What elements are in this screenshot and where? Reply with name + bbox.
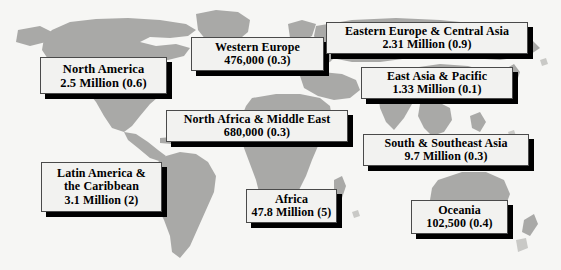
callout-oceania-value: 102,500 (0.4) (426, 217, 492, 230)
landmass-new-zealand (522, 214, 538, 236)
landmass-new-zealand-south (516, 238, 528, 252)
landmass-philippines (470, 112, 486, 132)
callout-south-asia-label: South & Southeast Asia (384, 137, 507, 150)
callout-africa[interactable]: Africa 47.8 Million (5) (246, 189, 337, 223)
callout-north-america[interactable]: North America 2.5 Million (0.6) (40, 57, 167, 94)
callout-latin-america-caribbean[interactable]: Latin America & the Caribbean 3.1 Millio… (41, 162, 162, 212)
callout-africa-label: Africa (275, 193, 308, 206)
callout-western-europe-label: Western Europe (215, 41, 300, 54)
callout-western-europe[interactable]: Western Europe 476,000 (0.3) (191, 37, 324, 71)
landmass-southeast-asia (418, 102, 452, 136)
callout-western-europe-value: 476,000 (0.3) (224, 54, 290, 67)
callout-eastern-europe-value: 2.31 Million (0.9) (382, 38, 471, 51)
callout-north-america-value: 2.5 Million (0.6) (60, 76, 146, 90)
landmass-central-america (124, 132, 166, 162)
callout-east-asia-label: East Asia & Pacific (387, 70, 487, 83)
world-map-infographic: North America 2.5 Million (0.6) Western … (0, 0, 561, 270)
callout-latin-america-label-line2: the Caribbean (64, 180, 139, 193)
callout-eastern-europe-label: Eastern Europe & Central Asia (345, 25, 509, 38)
callout-africa-value: 47.8 Million (5) (252, 206, 332, 219)
callout-latin-america-value: 3.1 Million (2) (65, 194, 139, 207)
callout-south-asia-value: 9.7 Million (0.3) (404, 150, 487, 163)
callout-latin-america-label-line1: Latin America & (57, 167, 146, 180)
callout-north-africa-middle-east[interactable]: North Africa & Middle East 680,000 (0.3) (166, 110, 348, 142)
callout-oceania[interactable]: Oceania 102,500 (0.4) (411, 200, 508, 234)
callout-north-america-label: North America (63, 62, 144, 76)
callout-east-asia-value: 1.33 Million (0.1) (392, 83, 481, 96)
callout-eastern-europe-central-asia[interactable]: Eastern Europe & Central Asia 2.31 Milli… (326, 22, 528, 54)
callout-north-africa-label: North Africa & Middle East (184, 113, 331, 126)
callout-oceania-label: Oceania (438, 204, 481, 217)
callout-east-asia-pacific[interactable]: East Asia & Pacific 1.33 Million (0.1) (361, 67, 513, 99)
callout-north-africa-value: 680,000 (0.3) (224, 126, 290, 139)
callout-south-southeast-asia[interactable]: South & Southeast Asia 9.7 Million (0.3) (363, 134, 529, 166)
